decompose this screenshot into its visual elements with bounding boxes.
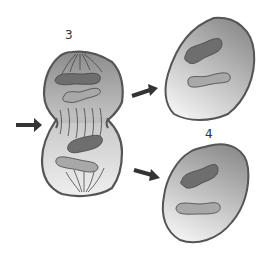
cell-division-diagram bbox=[0, 0, 276, 258]
daughter-cell-bottom bbox=[163, 144, 249, 242]
dividing-cell-lower bbox=[42, 120, 122, 196]
daughter-cell-top bbox=[166, 18, 255, 120]
arrow-bottom-right-icon bbox=[134, 169, 160, 181]
dividing-cell-upper bbox=[44, 51, 123, 120]
chromosome-light bbox=[176, 203, 220, 215]
arrow-top-right-icon bbox=[132, 84, 158, 96]
arrow-left-icon bbox=[16, 118, 42, 132]
dividing-cell bbox=[42, 51, 123, 196]
stage-3-label: 3 bbox=[65, 28, 73, 42]
chromosome-dark-top bbox=[55, 73, 100, 85]
stage-4-label: 4 bbox=[205, 127, 213, 141]
